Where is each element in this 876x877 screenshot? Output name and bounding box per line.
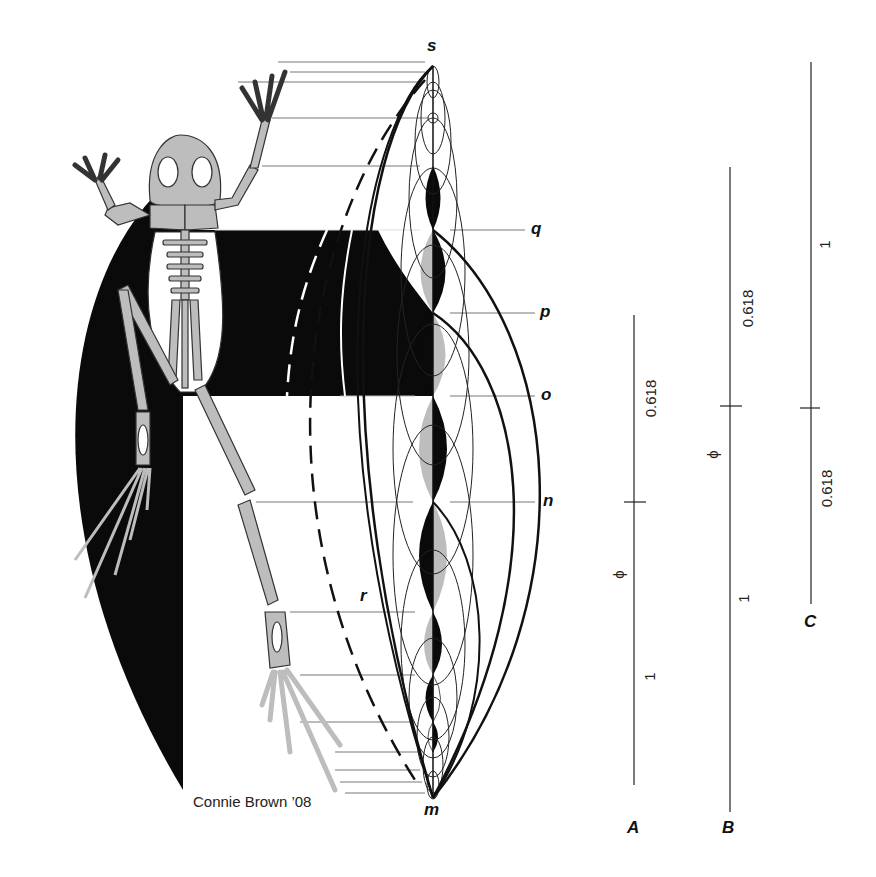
line-c-segment-1: 1 [816, 240, 833, 248]
line-c-segment-0618: 0.618 [818, 470, 835, 508]
line-a-segment-1: 1 [641, 672, 658, 680]
artist-credit: Connie Brown ’08 [193, 793, 311, 810]
line-b-label: B [722, 818, 734, 838]
line-c-label: C [804, 612, 816, 632]
line-a-segment-0618: 0.618 [642, 380, 659, 418]
line-a-label: A [627, 818, 639, 838]
frog-golden-ratio-diagram [0, 0, 876, 877]
ratio-lines [624, 62, 820, 812]
point-label-r: r [360, 586, 367, 606]
black-crescent-region [75, 170, 433, 790]
point-label-q: q [531, 219, 541, 239]
point-label-s: s [427, 36, 436, 56]
line-b-segment-1: 1 [735, 594, 752, 602]
line-b-segment-0618: 0.618 [739, 290, 756, 328]
point-label-o: o [541, 385, 551, 405]
line-a-segment-phi: ϕ [610, 570, 627, 578]
bold-arcs [357, 66, 540, 798]
point-label-m: m [424, 800, 439, 820]
point-label-n: n [543, 491, 553, 511]
line-b-segment-phi: ϕ [704, 450, 721, 458]
point-label-p: p [540, 302, 550, 322]
